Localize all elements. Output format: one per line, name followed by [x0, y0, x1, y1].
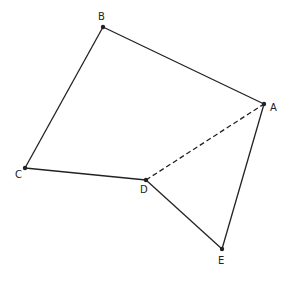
point-e	[220, 247, 224, 251]
points: ABCDE	[15, 11, 277, 266]
point-c	[23, 166, 27, 170]
segment-ab	[103, 27, 264, 104]
diagram-svg: ABCDE	[0, 0, 294, 283]
segment-bc	[25, 27, 103, 168]
point-d	[144, 178, 148, 182]
point-b	[101, 25, 105, 29]
point-a	[262, 102, 266, 106]
label-a: A	[270, 102, 277, 113]
segment-de	[146, 180, 222, 249]
segment-cd	[25, 168, 146, 180]
label-d: D	[140, 184, 148, 195]
segment-da	[146, 104, 264, 180]
label-c: C	[15, 169, 22, 180]
label-b: B	[98, 11, 105, 22]
geometry-diagram: ABCDE	[0, 0, 294, 283]
label-e: E	[218, 255, 224, 266]
segment-ea	[222, 104, 264, 249]
segments	[25, 27, 264, 249]
